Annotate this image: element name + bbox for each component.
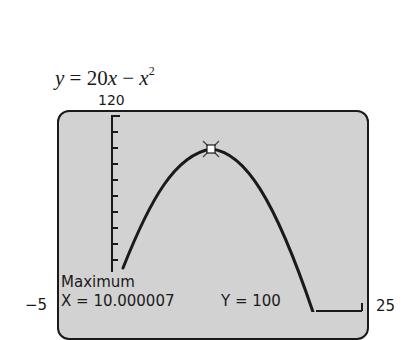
xmax-label: 25 (376, 297, 395, 315)
xmin-label: −5 (25, 296, 47, 314)
readout-y-value: Y = 100 (221, 292, 281, 310)
x-axis (316, 303, 362, 311)
readout-title: Maximum (61, 273, 135, 291)
readout-x-value: X = 10.000007 (61, 292, 175, 310)
parabola-curve (123, 149, 313, 312)
y-axis (112, 115, 120, 272)
